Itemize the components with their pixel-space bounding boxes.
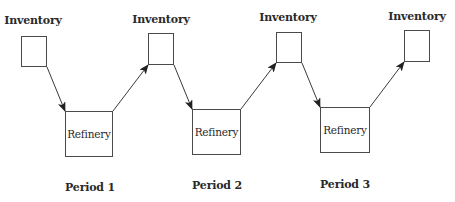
inventory-refinery-flow-diagram: Inventory Inventory Inventory Inventory … (0, 0, 455, 202)
refinery-label-3: Refinery (321, 124, 369, 136)
inventory-label-4: Inventory (388, 10, 445, 23)
refinery-box-3: Refinery (320, 107, 370, 153)
arrow-inventory-2-to-refinery-2 (174, 65, 192, 109)
arrow-inventory-3-to-refinery-3 (302, 63, 320, 107)
period-label-2: Period 2 (192, 179, 242, 192)
arrow-inventory-1-to-refinery-1 (47, 67, 65, 111)
arrow-refinery-3-to-inventory-4 (370, 62, 404, 107)
refinery-label-2: Refinery (193, 126, 240, 138)
period-label-1: Period 1 (65, 181, 115, 194)
refinery-label-1: Refinery (66, 128, 112, 140)
inventory-box-4 (404, 30, 430, 62)
arrow-refinery-1-to-inventory-2 (113, 65, 148, 111)
arrow-refinery-2-to-inventory-3 (241, 63, 276, 109)
period-label-3: Period 3 (320, 178, 370, 191)
inventory-box-2 (148, 33, 174, 65)
refinery-box-1: Refinery (65, 111, 113, 157)
inventory-box-1 (21, 36, 47, 67)
inventory-label-3: Inventory (259, 11, 316, 24)
inventory-label-2: Inventory (132, 13, 189, 26)
inventory-box-3 (276, 32, 302, 63)
inventory-label-1: Inventory (4, 14, 61, 27)
refinery-box-2: Refinery (192, 109, 241, 155)
arrows-layer (0, 0, 455, 202)
